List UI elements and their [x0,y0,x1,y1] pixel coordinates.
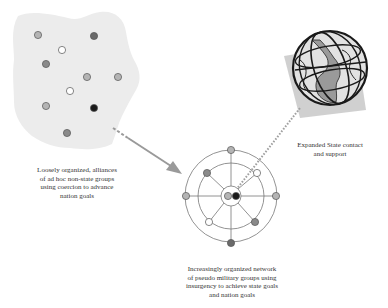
network-node [203,169,210,176]
network-node [227,239,234,246]
group-node [83,73,90,80]
network-node [205,218,212,225]
globe-group [284,24,370,118]
group-node [90,32,97,39]
network-node [227,146,234,153]
label-state-support: Expanded State contact and support [284,141,376,158]
network-node [182,192,189,199]
group-node [63,129,70,136]
organized-network [182,146,279,246]
network-node [272,192,279,199]
group-node [42,102,49,109]
non-state-region-blob [13,12,140,150]
network-node [251,218,258,225]
label-organized-network: Increasingly organized network of pseudo… [170,265,294,299]
core-node [232,192,239,199]
group-node [114,73,121,80]
group-node [34,31,41,38]
group-node [58,46,65,53]
group-node [90,104,97,111]
core-node [224,192,231,199]
label-loose-alliances: Loosely organized, alliances of ad hoc n… [22,166,132,200]
network-node [253,169,260,176]
group-node [66,87,73,94]
group-node [42,60,49,67]
